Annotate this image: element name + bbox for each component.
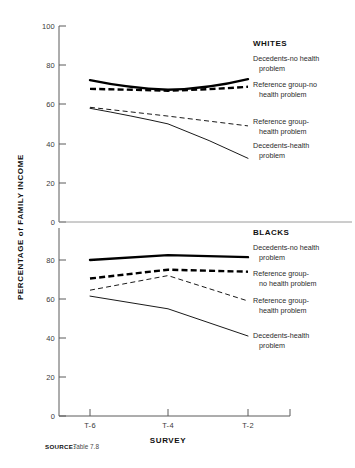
whites-series-decedents-health-problem [90,108,248,158]
blacks-legend-item-3-line-1: problem [259,341,285,350]
whites-legend-item-3-line-1: problem [259,151,285,160]
ytick-40: 40 [46,140,55,149]
blacks-legend-item-1-line-1: no health problem [259,279,317,288]
ytick-80-blacks: 80 [46,256,55,265]
blacks-y-tick-labels: 80 60 40 20 0 [46,256,55,421]
x-tick-labels: T-6 T-4 T-2 [84,421,254,430]
blacks-legend-item-1-line-0: Reference group- [253,269,310,278]
xtick-t2: T-2 [242,421,254,430]
panel-blacks: 80 60 40 20 0 T-6 T-4 T-2 SURVEY [46,228,319,445]
ytick-20: 20 [46,179,55,188]
whites-legend-item-0-line-1: problem [259,64,285,73]
blacks-legend-item-2-line-1: health problem [259,306,307,315]
xtick-t6: T-6 [84,421,96,430]
blacks-y-ticks [59,260,66,416]
panel-whites: 100 80 60 40 20 0 WHITES Decedents-no he… [42,22,352,227]
source-label: SOURCE: [45,443,76,450]
blacks-x-ticks [90,409,290,416]
whites-legend-item-1-line-0: Reference group-no [253,80,317,89]
whites-legend-item-3-line-0: Decedents-health [253,141,309,150]
whites-legend-item-0-line-0: Decedents-no health [253,54,319,63]
blacks-series-reference-group-health-problem [90,276,248,301]
ytick-60-blacks: 60 [46,295,55,304]
blacks-panel-title: BLACKS [253,228,289,237]
ytick-60: 60 [46,100,55,109]
source-note: SOURCE: Table 7.8 [45,443,99,450]
ytick-0: 0 [51,218,55,227]
ytick-80: 80 [46,61,55,70]
source-value: Table 7.8 [73,443,99,450]
x-axis-title: SURVEY [150,436,186,445]
whites-series-reference-group-health-problem [90,107,248,126]
ytick-40-blacks: 40 [46,334,55,343]
blacks-legend-item-0-line-0: Decedents-no health [253,243,319,252]
whites-panel-title: WHITES [253,39,287,48]
blacks-series-decedents-health-problem [90,296,248,336]
y-axis-title: PERCENTAGE of FAMILY INCOME [16,154,25,300]
blacks-legend: BLACKS Decedents-no health problem Refer… [253,228,319,350]
blacks-series-decedents-no-health-problem [90,255,248,260]
whites-legend-item-2-line-1: health problem [259,127,307,136]
ytick-0-blacks: 0 [51,412,55,421]
ytick-100: 100 [42,22,55,31]
ytick-20-blacks: 20 [46,373,55,382]
blacks-legend-item-0-line-1: problem [259,253,285,262]
whites-y-tick-labels: 100 80 60 40 20 0 [42,22,55,227]
blacks-series-reference-group-no-health-problem [90,270,248,279]
whites-y-ticks [59,26,66,222]
figure-container: PERCENTAGE of FAMILY INCOME 100 80 60 40… [0,0,355,468]
whites-legend: WHITES Decedents-no health problem Refer… [253,39,319,160]
whites-legend-item-1-line-1: health problem [259,90,307,99]
blacks-legend-item-3-line-0: Decedents-health [253,331,309,340]
line-chart: PERCENTAGE of FAMILY INCOME 100 80 60 40… [0,0,355,468]
xtick-t4: T-4 [162,421,174,430]
whites-legend-item-2-line-0: Reference group- [253,117,310,126]
blacks-legend-item-2-line-0: Reference group- [253,296,310,305]
